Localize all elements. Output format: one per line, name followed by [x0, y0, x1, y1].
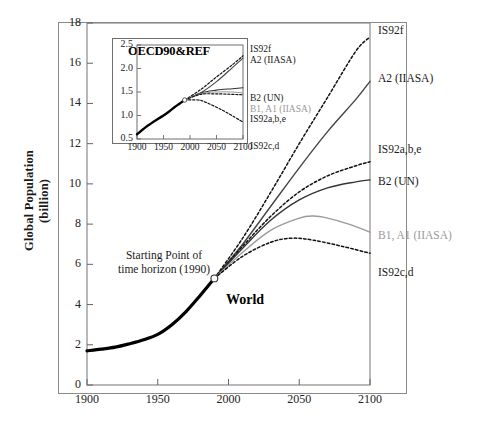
inset-title: OECD90&REF	[128, 44, 210, 59]
y-tick-2: 2	[55, 337, 81, 352]
figure-root: Global Population (billion) 024681012141…	[0, 0, 481, 431]
inset-series-label-is92c-d: IS92c,d	[250, 141, 279, 151]
inset-y-tick-2.5: 2.5	[111, 38, 133, 49]
y-tick-10: 10	[55, 176, 81, 191]
x-tick-1950: 1950	[133, 392, 183, 407]
starting-point-annotation: Starting Point of time horizon (1990)	[118, 248, 210, 276]
world-label: World	[226, 292, 264, 308]
series-label-is92f: IS92f	[378, 24, 404, 36]
inset-series-label-b2-un: B2 (UN)	[250, 93, 284, 103]
y-tick-18: 18	[55, 15, 81, 30]
inset-y-tick-2.0: 2.0	[111, 62, 133, 73]
series-label-b1-a1-iiasa: B1, A1 (IIASA)	[378, 229, 452, 241]
x-tick-1900: 1900	[62, 392, 112, 407]
x-tick-2000: 2000	[204, 392, 254, 407]
inset-series-label-a2-iiasa: A2 (IIASA)	[250, 55, 296, 65]
x-tick-2050: 2050	[274, 392, 324, 407]
y-tick-4: 4	[55, 297, 81, 312]
series-label-is92c-d: IS92c,d	[378, 266, 413, 278]
inset-series-label-is92a-b-e: IS92a,b,e	[250, 114, 286, 124]
y-tick-8: 8	[55, 216, 81, 231]
series-label-a2-iiasa: A2 (IIASA)	[378, 72, 433, 84]
inset-y-tick-1.0: 1.0	[111, 109, 133, 120]
y-tick-14: 14	[55, 95, 81, 110]
series-label-is92a-b-e: IS92a,b,e	[378, 143, 421, 155]
x-tick-2100: 2100	[345, 392, 395, 407]
y-tick-12: 12	[55, 136, 81, 151]
y-tick-16: 16	[55, 55, 81, 70]
starting-point-line2: time horizon (1990)	[118, 263, 210, 275]
inset-series-label-b1-a1-iiasa: B1, A1 (IIASA)	[250, 104, 311, 114]
starting-point-line1: Starting Point of	[126, 249, 202, 261]
inset-series-label-is92f: IS92f	[250, 44, 271, 54]
y-tick-6: 6	[55, 256, 81, 271]
y-tick-0: 0	[55, 377, 81, 392]
series-label-b2-un: B2 (UN)	[378, 175, 419, 187]
inset-y-tick-1.5: 1.5	[111, 85, 133, 96]
